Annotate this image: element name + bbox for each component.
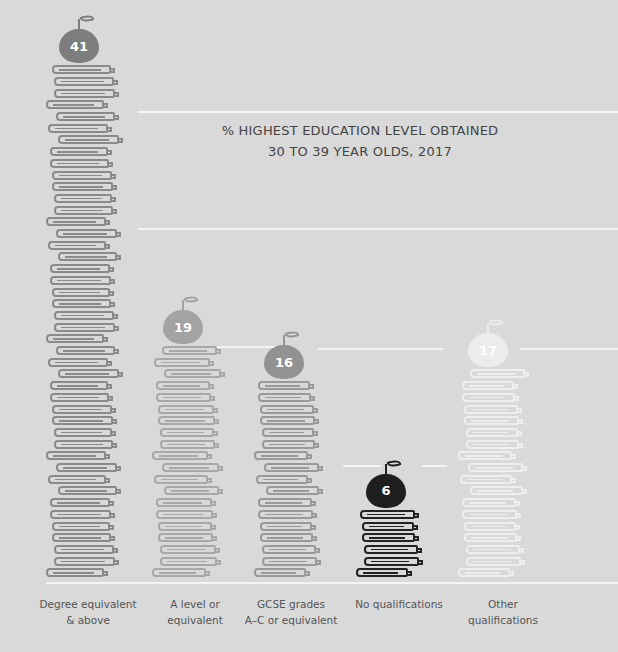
book-icon <box>464 416 519 425</box>
book-icon <box>260 533 313 542</box>
book-icon <box>466 440 519 449</box>
apple-stem-icon <box>283 335 285 345</box>
chart-title: % HIGHEST EDUCATION LEVEL OBTAINED 30 TO… <box>190 120 530 162</box>
apple-leaf-icon <box>386 458 401 468</box>
book-icon <box>468 463 523 472</box>
apple-stem-icon <box>182 300 184 310</box>
category-label-gcse: GCSE grades A–C or equivalent <box>236 596 346 628</box>
book-icon <box>362 533 415 542</box>
gridline-16a <box>318 348 443 350</box>
book-icon <box>262 557 317 566</box>
value-label: 6 <box>381 483 390 498</box>
book-icon <box>54 206 113 215</box>
value-label: 41 <box>70 39 88 54</box>
book-icon <box>48 358 108 367</box>
apple-stem-icon <box>78 19 80 29</box>
book-icon <box>48 124 108 133</box>
book-icon <box>258 381 310 390</box>
book-icon <box>50 393 109 402</box>
book-icon <box>362 522 414 531</box>
apple-value-icon: 16 <box>264 345 304 379</box>
book-icon <box>258 393 311 402</box>
book-icon <box>160 428 214 437</box>
book-icon <box>158 405 214 414</box>
book-icon <box>58 369 119 378</box>
book-icon <box>254 451 308 460</box>
apple-leaf-icon <box>284 329 299 339</box>
book-icon <box>158 416 215 425</box>
book-icon <box>466 545 520 554</box>
book-icon <box>52 288 110 297</box>
apple-leaf-icon <box>79 13 94 23</box>
apple-stem-icon <box>385 464 387 474</box>
book-icon <box>160 440 215 449</box>
book-icon <box>54 545 114 554</box>
book-icon <box>52 65 111 74</box>
book-icon <box>258 510 313 519</box>
book-icon <box>466 428 518 437</box>
book-icon <box>156 510 213 519</box>
book-icon <box>54 323 115 332</box>
book-icon <box>470 486 523 495</box>
category-label-other: Other qualifications <box>448 596 558 628</box>
baseline <box>46 582 618 584</box>
book-icon <box>56 112 115 121</box>
book-icon <box>152 451 208 460</box>
book-icon <box>162 346 217 355</box>
book-icon <box>52 405 112 414</box>
book-icon <box>52 416 113 425</box>
book-icon <box>46 451 106 460</box>
book-icon <box>50 498 110 507</box>
chart-title-line1: % HIGHEST EDUCATION LEVEL OBTAINED <box>190 120 530 141</box>
book-icon <box>160 545 216 554</box>
book-icon <box>262 545 316 554</box>
gridline-6a <box>343 465 381 467</box>
book-icon <box>54 194 112 203</box>
book-icon <box>260 416 315 425</box>
apple-leaf-icon <box>488 318 503 328</box>
book-icon <box>50 276 111 285</box>
book-icon <box>58 135 119 144</box>
book-icon <box>52 522 110 531</box>
book-icon <box>364 557 419 566</box>
book-icon <box>164 486 219 495</box>
book-icon <box>48 241 106 250</box>
book-icon <box>470 369 525 378</box>
gridline-mid <box>138 228 618 230</box>
book-icon <box>50 510 111 519</box>
book-icon <box>360 510 415 519</box>
apple-value-icon: 41 <box>59 29 99 63</box>
book-icon <box>260 522 312 531</box>
apple-leaf-icon <box>183 294 198 304</box>
book-icon <box>462 510 517 519</box>
book-icon <box>364 545 418 554</box>
book-icon <box>50 159 109 168</box>
book-icon <box>48 475 106 484</box>
book-icon <box>58 486 117 495</box>
book-icon <box>256 475 308 484</box>
book-icon <box>356 568 408 577</box>
book-icon <box>46 217 106 226</box>
book-icon <box>58 252 117 261</box>
book-icon <box>152 568 206 577</box>
book-icon <box>460 475 512 484</box>
book-icon <box>154 358 210 367</box>
book-icon <box>464 405 518 414</box>
book-icon <box>158 533 213 542</box>
gridline-6b <box>422 465 447 467</box>
book-icon <box>254 568 306 577</box>
book-icon <box>54 557 115 566</box>
value-label: 16 <box>275 355 293 370</box>
book-icon <box>56 229 117 238</box>
book-icon <box>46 568 104 577</box>
book-icon <box>50 381 108 390</box>
book-icon <box>54 440 113 449</box>
gridline-19 <box>216 346 276 348</box>
book-icon <box>160 557 217 566</box>
value-label: 19 <box>174 320 192 335</box>
book-icon <box>466 557 521 566</box>
book-icon <box>156 498 212 507</box>
book-icon <box>54 77 114 86</box>
book-icon <box>46 334 104 343</box>
book-icon <box>464 522 516 531</box>
